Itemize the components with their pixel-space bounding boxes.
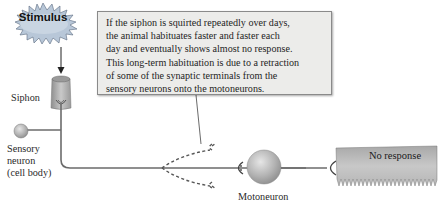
motoneuron-label: Motoneuron [238, 191, 288, 203]
sensory-neuron-label: Sensory neuron (cell body) [7, 143, 51, 179]
stimulus-arrow-icon [58, 47, 65, 74]
callout-pointer [196, 95, 201, 144]
siphon-label: Siphon [11, 92, 40, 104]
stimulus-burst-icon [15, 3, 77, 44]
callout-line: the animal habituates faster and faster … [106, 29, 325, 42]
callout-line: This long-term habituation is due to a r… [106, 56, 325, 69]
stimulus-label: Stimulus [10, 11, 76, 23]
callout-line: day and eventually shows almost no respo… [106, 42, 325, 55]
retracted-terminals [162, 143, 216, 189]
callout-line: sensory neurons onto the motoneurons. [106, 82, 325, 95]
callout-line: of some of the synaptic terminals from t… [106, 69, 325, 82]
explanation-callout: If the siphon is squirted repeatedly ove… [97, 11, 332, 95]
sensory-neuron-cell-body [14, 124, 28, 138]
motoneuron-cell-body [247, 150, 281, 184]
neuromuscular-terminal-icon [331, 161, 337, 175]
response-label: No response [360, 150, 430, 161]
callout-line: If the siphon is squirted repeatedly ove… [106, 16, 325, 29]
